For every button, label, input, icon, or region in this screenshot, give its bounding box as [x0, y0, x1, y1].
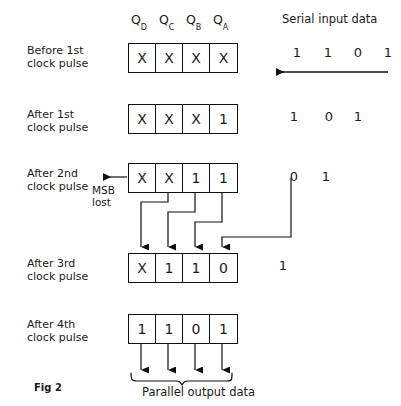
shift-register-diagram: QD QC QB QA Serial input data Before 1st…: [0, 0, 401, 406]
register-cell: X: [183, 44, 210, 72]
column-header-qa: QA: [213, 12, 228, 30]
serial-digit: 0: [352, 46, 364, 59]
register-cell: X: [129, 164, 156, 192]
row-caption-after-4th: After 4th clock pulse: [27, 318, 127, 344]
column-header-qa-sub: A: [223, 23, 228, 32]
register-cell: 0: [183, 315, 210, 343]
register-row-after-4th: 1 1 0 1: [128, 314, 238, 344]
register-cell: 1: [156, 254, 183, 282]
column-header-qb-sub: B: [196, 23, 202, 32]
serial-digit: 1: [291, 46, 303, 59]
serial-digit: 0: [323, 110, 335, 123]
register-cell: X: [156, 44, 183, 72]
register-cell: 1: [156, 315, 183, 343]
parallel-output-brace: [131, 373, 232, 385]
register-cell: X: [129, 105, 156, 133]
register-cell: 1: [183, 254, 210, 282]
row-caption-after-1st: After 1st clock pulse: [27, 108, 127, 134]
register-row-after-2nd: X X 1 1: [128, 163, 238, 193]
register-cell: X: [210, 44, 237, 72]
column-header-qc-sub: C: [169, 23, 175, 32]
serial-digit: 0: [288, 170, 300, 183]
shift-connector-qc-to-qd: [141, 192, 168, 247]
register-cell: 1: [129, 315, 156, 343]
register-cell: 0: [210, 254, 237, 282]
column-header-qb-base: Q: [186, 12, 196, 27]
parallel-output-label: Parallel output data: [142, 385, 255, 399]
register-row-after-1st: X X X 1: [128, 104, 238, 134]
register-cell: 1: [210, 105, 237, 133]
column-header-qa-base: Q: [213, 12, 223, 27]
serial-digit: 1: [382, 46, 394, 59]
register-cell: 1: [210, 164, 237, 192]
shift-connector-qa-to-qb: [195, 192, 222, 247]
serial-digit: 1: [352, 110, 364, 123]
register-cell: X: [183, 105, 210, 133]
register-cell: X: [129, 44, 156, 72]
register-cell: X: [156, 164, 183, 192]
column-header-qc-base: Q: [159, 12, 169, 27]
row-caption-after-3rd: After 3rd clock pulse: [27, 257, 127, 283]
row-caption-before-1st: Before 1st clock pulse: [27, 44, 127, 70]
register-cell: 1: [210, 315, 237, 343]
register-row-before-1st: X X X X: [128, 43, 238, 73]
serial-digit: 1: [277, 259, 289, 272]
column-header-qc: QC: [159, 12, 174, 30]
shift-connector-qb-to-qc: [168, 192, 195, 247]
serial-digit: 1: [320, 170, 332, 183]
register-cell: 1: [183, 164, 210, 192]
register-row-after-3rd: X 1 1 0: [128, 253, 238, 283]
register-cell: X: [129, 254, 156, 282]
serial-input-title: Serial input data: [282, 12, 377, 26]
figure-caption: Fig 2: [34, 382, 62, 393]
column-header-qd-sub: D: [141, 23, 147, 32]
register-cell: X: [156, 105, 183, 133]
column-header-qd: QD: [131, 12, 147, 30]
serial-digit: 1: [322, 46, 334, 59]
column-header-qd-base: Q: [131, 12, 141, 27]
msb-lost-label: MSB lost: [92, 184, 115, 208]
column-header-qb: QB: [186, 12, 201, 30]
serial-digit: 1: [288, 110, 300, 123]
